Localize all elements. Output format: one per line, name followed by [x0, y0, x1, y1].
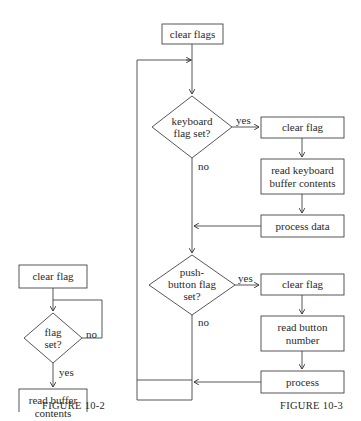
fig3-kb-clear-flag-label: clear flag — [261, 117, 344, 138]
fig3-process-data-label: process data — [261, 215, 344, 237]
fig2-no-label: no — [86, 328, 97, 340]
fig3-keyboard-decision-label: keyboard flag set? — [162, 115, 222, 139]
fig2-decision-label: flag set? — [33, 326, 73, 350]
fig3-process-label: process — [261, 371, 344, 393]
fig3-kb-read-label: read keyboard buffer contents — [261, 159, 344, 194]
fig3-pb-no-label: no — [198, 316, 209, 328]
fig3-pushbutton-decision-label: push- button flag set? — [162, 266, 222, 302]
fig2-caption: FIGURE 10-2 — [42, 400, 105, 411]
fig3-caption: FIGURE 10-3 — [280, 400, 343, 411]
fig3-pb-yes-label: yes — [238, 272, 253, 284]
fig2-clear-flag-label: clear flag — [19, 265, 87, 288]
fig3-pb-clear-flag-label: clear flag — [261, 274, 344, 295]
fig3-pb-read-label: read button number — [261, 316, 344, 351]
fig3-kb-no-label: no — [198, 160, 209, 172]
fig3-clear-flags-label: clear flags — [162, 24, 223, 44]
fig3-kb-yes-label: yes — [236, 114, 251, 126]
fig2-yes-label: yes — [59, 366, 74, 378]
